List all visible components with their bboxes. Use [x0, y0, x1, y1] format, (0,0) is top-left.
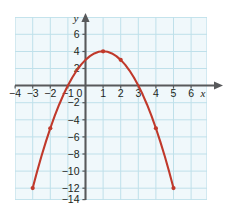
data-point: [101, 49, 105, 53]
y-tick-label: −2: [68, 96, 80, 108]
data-point: [48, 126, 52, 130]
y-tick-label: −4: [68, 114, 80, 126]
x-tick-label: −3: [27, 87, 39, 99]
y-tick-label: −12: [62, 182, 80, 194]
data-point: [119, 58, 123, 62]
x-axis-label: x: [200, 87, 206, 99]
y-tick-label: 6: [74, 28, 80, 40]
x-tick-label: 2: [118, 87, 124, 99]
data-point: [154, 126, 158, 130]
y-tick-label: −6: [68, 131, 80, 143]
y-tick-label: −8: [68, 148, 80, 160]
x-tick-label: 5: [171, 87, 177, 99]
x-tick-label: −4: [9, 87, 21, 99]
y-tick-label: −10: [62, 165, 80, 177]
x-tick-label: 1: [100, 87, 106, 99]
y-tick-label: 4: [74, 45, 80, 57]
data-point: [31, 186, 35, 190]
graph-figure: −4 −3 −2 −1 0 1 2 3 4 5 6 6 4 2 −2 −4 −6…: [0, 0, 231, 220]
grid-background: [15, 17, 207, 200]
y-axis-label: y: [73, 12, 79, 24]
coordinate-plane: −4 −3 −2 −1 0 1 2 3 4 5 6 6 4 2 −2 −4 −6…: [0, 0, 231, 220]
x-tick-label: 6: [188, 87, 194, 99]
x-axis-arrow-icon: [214, 81, 223, 89]
x-tick-label: 4: [153, 87, 159, 99]
y-tick-label: −14: [62, 193, 80, 205]
data-point: [171, 186, 175, 190]
x-tick-label: −2: [44, 87, 56, 99]
